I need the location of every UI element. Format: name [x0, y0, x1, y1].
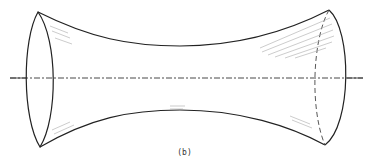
- hyperboloid-diagram: [0, 0, 369, 168]
- right-end-front-arc: [325, 10, 346, 145]
- left-end-ellipse: [26, 12, 53, 147]
- top-profile-curve: [38, 10, 329, 46]
- bottom-profile-curve: [40, 110, 325, 147]
- figure-caption: (b): [0, 148, 369, 157]
- shading-hatch: [50, 18, 334, 134]
